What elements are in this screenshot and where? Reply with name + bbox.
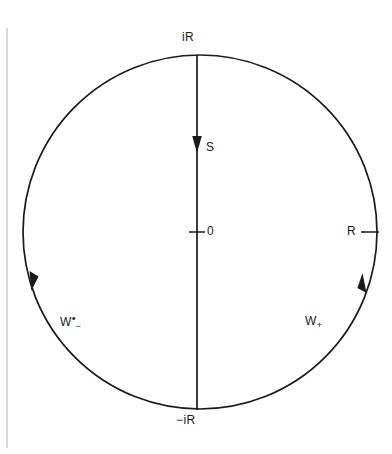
label-top-imaginary-ir: iR (182, 31, 194, 43)
label-segment-s: S (206, 141, 214, 153)
label-w-minus: W•− (60, 313, 81, 331)
label-w-plus-subscript: + (317, 320, 322, 330)
contour-figure: iR −iR S 0 R W•− W+ (0, 0, 392, 454)
label-w-plus: W+ (305, 315, 322, 330)
label-w-minus-subscript: − (76, 321, 81, 331)
s-direction-arrowhead (192, 136, 202, 153)
contour-diagram-canvas (0, 0, 392, 454)
label-bottom-imaginary-minus-ir: −iR (176, 414, 196, 426)
label-origin-zero: 0 (207, 225, 214, 237)
label-w-plus-base: W (305, 314, 317, 328)
label-radius-r: R (347, 225, 356, 237)
w-minus-direction-arrowhead (30, 271, 39, 291)
label-w-minus-base: W (60, 315, 72, 329)
w-plus-direction-arrowhead (357, 273, 366, 293)
